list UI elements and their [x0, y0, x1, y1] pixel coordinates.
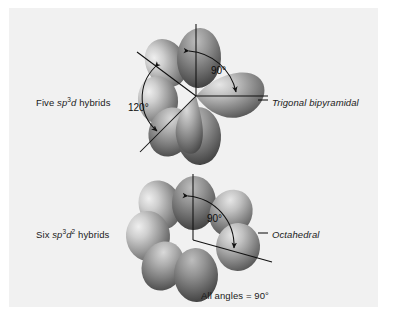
label-hybrids-suffix: hybrids — [75, 229, 109, 240]
label-sp: sp — [52, 229, 62, 240]
label-six-sp3d2-hybrids: Six sp3d2 hybrids — [36, 230, 109, 240]
caption-all-angles: All angles = 90° — [201, 291, 269, 301]
orbital-diagram-octahedral: 90° — [0, 0, 395, 322]
label-octahedral: Octahedral — [272, 230, 319, 240]
label-six-prefix: Six — [36, 229, 52, 240]
angle-label-90-bottom: 90° — [207, 213, 222, 224]
figure-root: 90° 120° Five sp3d hybrids Trigonal bipy… — [0, 0, 395, 322]
